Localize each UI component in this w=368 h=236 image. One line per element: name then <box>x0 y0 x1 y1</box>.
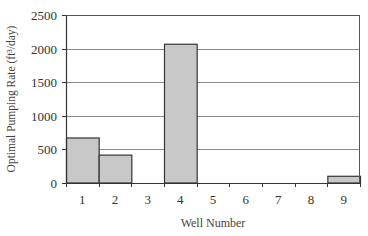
x-tick-label: 1 <box>79 192 86 207</box>
x-tick-label: 8 <box>308 192 315 207</box>
y-axis-label-text: Optimal Pumping Rate (ft³/day) <box>5 26 17 173</box>
x-tick-label: 5 <box>210 192 217 207</box>
y-tick-label: 1000 <box>31 109 57 124</box>
x-tick-label: 6 <box>242 192 249 207</box>
y-tick-label: 0 <box>51 176 58 191</box>
bar-well-1 <box>67 138 100 183</box>
x-tick-label: 2 <box>112 192 119 207</box>
bar-well-9 <box>328 176 361 183</box>
bars <box>67 44 361 183</box>
x-axis-ticks: 123456789 <box>67 183 361 207</box>
y-axis-ticks: 05001000150020002500 <box>31 8 66 191</box>
y-tick-label: 500 <box>38 142 58 157</box>
x-tick-label: 4 <box>177 192 184 207</box>
bar-well-2 <box>99 155 132 183</box>
x-tick-label: 3 <box>144 192 151 207</box>
x-tick-label: 7 <box>275 192 282 207</box>
y-axis-label: Optimal Pumping Rate (ft³/day) <box>4 15 18 183</box>
x-axis-label: Well Number <box>66 216 360 231</box>
bar-well-4 <box>165 44 198 183</box>
gridlines <box>66 16 360 150</box>
y-tick-label: 2000 <box>31 42 57 57</box>
bar-chart: 05001000150020002500 123456789 <box>0 0 368 236</box>
x-tick-label: 9 <box>340 192 347 207</box>
y-tick-label: 2500 <box>31 8 57 23</box>
y-tick-label: 1500 <box>31 75 57 90</box>
